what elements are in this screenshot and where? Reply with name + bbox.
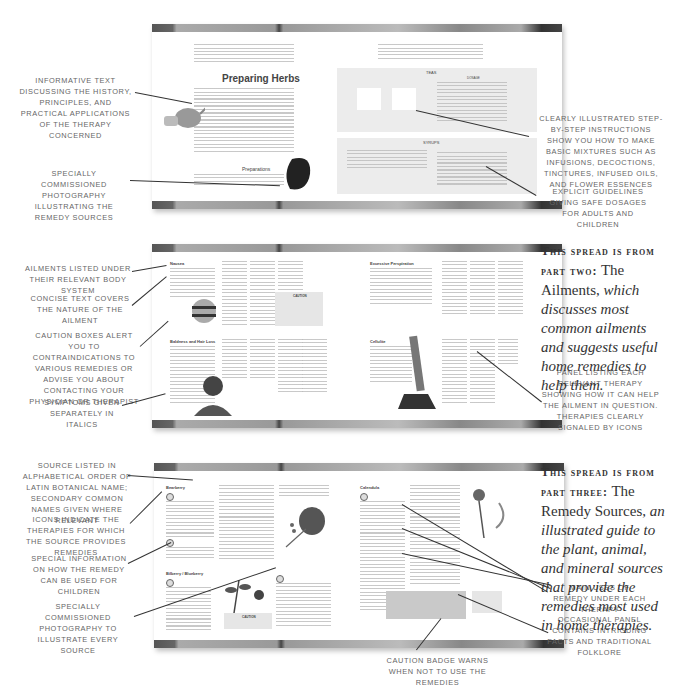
note-part: part two: xyxy=(541,264,597,278)
source-text xyxy=(166,547,214,559)
source-text xyxy=(166,587,211,631)
callout-photography-sources: Specially commissioned photography illus… xyxy=(20,168,128,223)
callout-children-info: Special information on how the remedy ca… xyxy=(30,553,128,597)
dosage-label: DOSAGE xyxy=(467,76,480,80)
note-part: part three: xyxy=(541,485,608,499)
source-heading: Bilberry / Blueberry xyxy=(166,571,203,576)
ailment-heading: Cellulite xyxy=(370,339,386,344)
source-text xyxy=(219,485,274,560)
therapy-column xyxy=(222,339,247,379)
callout-caution-badge: Caution badge warns when not to use the … xyxy=(380,655,495,686)
therapy-column xyxy=(498,339,518,364)
callout-informative-text: Informative text discussing the history,… xyxy=(18,75,133,141)
spread-ailments: Nausea CAUTION Baldness and Hair Loss Ex… xyxy=(152,244,562,428)
source-text xyxy=(166,501,214,537)
therapy-column xyxy=(250,339,275,379)
ailment-heading: Excessive Perspiration xyxy=(370,261,414,266)
body-text xyxy=(194,88,294,153)
callout-dosages: Explicit guidelines giving safe dosages … xyxy=(543,186,653,230)
page-color-band-top xyxy=(154,463,564,471)
intro-text xyxy=(194,44,294,64)
yoga-photo xyxy=(398,334,436,409)
therapy-column xyxy=(498,261,523,316)
source-text xyxy=(276,583,331,627)
source-heading: Bearberry xyxy=(166,485,185,490)
fruit-photo xyxy=(190,294,218,324)
ailment-heading: Nausea xyxy=(170,261,184,266)
note-description: which discusses most common ailments and… xyxy=(541,282,658,393)
page-color-band-bottom xyxy=(152,201,562,209)
callout-photography-every-source: Specially commissioned photography to il… xyxy=(24,601,132,656)
page-color-band-top xyxy=(152,244,562,252)
page-color-band-bottom xyxy=(152,420,562,428)
therapy-column xyxy=(470,261,495,316)
syrups-panel: SYRUPS xyxy=(337,138,537,194)
therapy-column xyxy=(222,261,247,326)
callout-caution-boxes: Caution boxes alert you to contraindicat… xyxy=(28,330,140,407)
note-prefix: This spread is from xyxy=(541,465,655,479)
teas-panel: TEAS DOSAGE xyxy=(337,68,537,132)
therapy-icon xyxy=(276,575,284,583)
syrups-dosage-text xyxy=(437,152,507,186)
step-photo-2 xyxy=(392,88,416,110)
therapy-icon xyxy=(166,493,174,501)
therapy-column xyxy=(442,339,467,404)
folklore-panel xyxy=(386,591,466,619)
flower-photo xyxy=(464,483,514,543)
page-color-band-bottom xyxy=(154,640,564,648)
spread-preparing-herbs: Preparing Herbs Preparations TEAS DOSAGE… xyxy=(152,24,562,209)
callout-therapy-icons: Icons indicate the therapies for which t… xyxy=(22,514,130,558)
therapy-column xyxy=(278,261,303,291)
page-color-band-top xyxy=(152,24,562,32)
ailment-heading: Baldness and Hair Loss xyxy=(170,339,215,344)
syrups-title: SYRUPS xyxy=(423,140,439,145)
note-prefix: This spread is from xyxy=(541,244,655,258)
source-heading: Calendula xyxy=(360,485,379,490)
teas-title: TEAS xyxy=(426,70,436,75)
herb-photo xyxy=(282,154,317,194)
syrups-text xyxy=(347,150,427,168)
subheading-preparations: Preparations xyxy=(242,166,270,172)
callout-ailments-listed: Ailments listed under their relevant bod… xyxy=(22,263,134,296)
teapot-photo xyxy=(160,102,205,130)
note-description: an illustrated guide to the plant, anima… xyxy=(541,503,665,633)
callout-concise-text: Concise text covers the nature of the ai… xyxy=(30,293,130,326)
therapy-column xyxy=(250,261,275,326)
caution-box: CAUTION xyxy=(275,292,323,326)
caution-label: CAUTION xyxy=(242,615,256,619)
therapy-icon xyxy=(166,579,174,587)
caution-badge: CAUTION xyxy=(224,613,272,629)
caution-label: CAUTION xyxy=(293,294,307,298)
therapy-column xyxy=(442,261,467,316)
source-text xyxy=(279,485,329,497)
leaf-photo xyxy=(282,503,327,548)
therapy-column xyxy=(302,339,327,394)
ailment-text xyxy=(370,268,432,306)
callout-symptoms-italics: Symptoms given separately in italics xyxy=(42,397,122,430)
berry-photo xyxy=(219,575,269,615)
step-photo-1 xyxy=(357,88,381,110)
therapy-column xyxy=(470,339,495,404)
right-intro-text xyxy=(378,44,483,60)
therapy-column xyxy=(278,339,303,394)
therapy-icon xyxy=(360,493,368,501)
part-two-note: This spread is from part two: The Ailmen… xyxy=(541,241,671,395)
callout-step-by-step: Clearly illustrated step-by-step instruc… xyxy=(537,113,665,190)
spread-remedy-sources: Bearberry Bilberry / Blueberry CAUTION C… xyxy=(154,463,564,648)
section-title: Preparing Herbs xyxy=(222,73,300,84)
part-three-note: This spread is from part three: The Reme… xyxy=(541,462,671,635)
